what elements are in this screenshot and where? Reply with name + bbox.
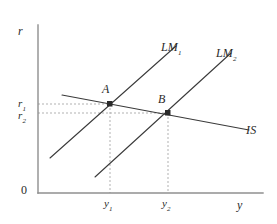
x-tick-label-y1: y1: [104, 198, 113, 212]
point-a-label: A: [102, 83, 110, 95]
curves: [50, 46, 249, 177]
point-b-marker: [165, 110, 171, 116]
x-axis-label: y: [237, 199, 243, 211]
is-curve-label: IS: [246, 124, 256, 139]
point-a-marker: [107, 101, 113, 107]
origin-label: 0: [21, 184, 27, 196]
is-lm-diagram: r y 0 r1 r2 y1 y2 A B LM1 LM2 IS: [0, 0, 277, 224]
x-tick-label-y2: y2: [162, 198, 171, 212]
is-curve: [62, 95, 249, 130]
y-axis-label: r: [18, 25, 23, 37]
y-tick-label-r2: r2: [18, 110, 26, 124]
lm1-curve-label: LM1: [161, 41, 182, 56]
diagram-canvas: [0, 0, 277, 224]
point-b-label: B: [158, 93, 166, 105]
guide-lines: [38, 104, 168, 193]
lm2-curve-label: LM2: [216, 47, 237, 62]
lm2-curve: [95, 53, 231, 177]
